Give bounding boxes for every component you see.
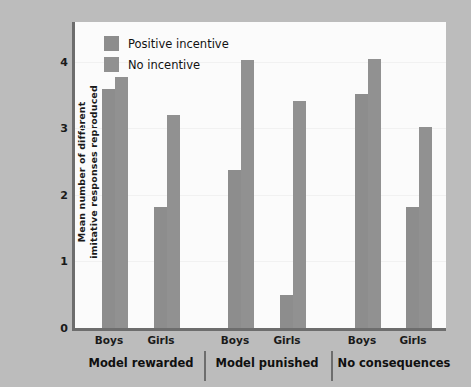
legend-label: No incentive — [128, 58, 200, 72]
bar — [167, 115, 180, 328]
bar — [355, 94, 368, 328]
x-group-label: Model rewarded — [88, 356, 193, 370]
x-tick-label: Girls — [399, 334, 426, 346]
bar — [228, 170, 241, 328]
figure: Mean number of different imitative respo… — [0, 0, 471, 387]
legend: Positive incentiveNo incentive — [104, 34, 229, 76]
legend-swatch — [104, 57, 119, 72]
legend-label: Positive incentive — [128, 37, 229, 51]
bar — [293, 101, 306, 329]
x-tick-label: Boys — [221, 334, 249, 346]
y-tick-label: 1 — [60, 255, 68, 268]
bar — [241, 60, 254, 328]
group-separator — [331, 351, 333, 381]
x-tick-label: Boys — [95, 334, 123, 346]
gridline — [75, 128, 446, 129]
bar — [406, 207, 419, 328]
legend-item: No incentive — [104, 55, 229, 74]
legend-swatch — [104, 36, 119, 51]
group-separator — [204, 351, 206, 381]
bar — [368, 59, 381, 328]
x-group-label: No consequences — [338, 356, 451, 370]
x-axis: BoysGirlsBoysGirlsBoysGirlsModel rewarde… — [72, 334, 446, 387]
y-tick-label: 0 — [60, 322, 68, 335]
bar — [102, 89, 115, 328]
y-tick-label: 2 — [60, 188, 68, 201]
bar — [154, 207, 167, 328]
bar — [115, 77, 128, 328]
x-tick-label: Girls — [273, 334, 300, 346]
x-group-label: Model punished — [216, 356, 319, 370]
x-tick-label: Girls — [147, 334, 174, 346]
legend-item: Positive incentive — [104, 34, 229, 53]
y-tick-label: 3 — [60, 122, 68, 135]
gridline — [75, 261, 446, 262]
bar — [280, 295, 293, 328]
gridline — [75, 195, 446, 196]
x-tick-label: Boys — [348, 334, 376, 346]
y-tick-label: 4 — [60, 55, 68, 68]
bar — [419, 127, 432, 328]
plot-panel: Mean number of different imitative respo… — [72, 22, 446, 331]
